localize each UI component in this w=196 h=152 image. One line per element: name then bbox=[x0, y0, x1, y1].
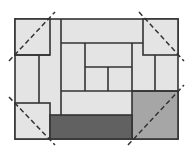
diagram-container bbox=[0, 0, 196, 152]
dark-bar-bottom bbox=[50, 115, 132, 139]
tangram-puzzle-diagram bbox=[0, 0, 196, 152]
